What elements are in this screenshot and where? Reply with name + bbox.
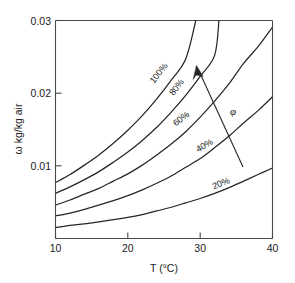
y-axis-ticks xyxy=(56,21,62,166)
rh-curve-20 xyxy=(56,168,273,228)
x-axis-title: T (°C) xyxy=(150,262,178,274)
rh-curve-label-60: 60% xyxy=(171,109,191,128)
y-axis-title: ω kg/kg air xyxy=(12,103,24,154)
x-tick-label-40: 40 xyxy=(267,242,279,254)
phi-symbol-label: φ xyxy=(230,105,236,117)
rh-curve-label-80: 80% xyxy=(167,77,186,97)
plot-frame xyxy=(56,21,273,239)
rh-curve-label-40: 40% xyxy=(194,137,215,155)
arrow-shaft xyxy=(199,71,243,167)
chart-canvas: 0.03 0.02 0.01 10 20 30 40 T (°C) ω kg/k… xyxy=(0,0,295,283)
rh-curve-100 xyxy=(56,21,196,183)
rh-curve-group xyxy=(56,21,273,228)
y-tick-label-0.03: 0.03 xyxy=(31,15,52,27)
rh-curve-label-group: 100%80%60%40%20% xyxy=(148,61,231,191)
x-axis-ticks xyxy=(56,233,273,239)
rh-curve-label-20: 20% xyxy=(211,175,231,191)
rh-curve-label-100: 100% xyxy=(148,61,170,85)
y-tick-label-0.01: 0.01 xyxy=(31,160,52,172)
rh-curve-40 xyxy=(56,97,273,216)
x-tick-label-30: 30 xyxy=(194,242,206,254)
x-tick-label-10: 10 xyxy=(50,242,62,254)
x-tick-label-20: 20 xyxy=(122,242,134,254)
y-tick-label-0.02: 0.02 xyxy=(31,87,52,99)
psychrometric-chart-figure: 0.03 0.02 0.01 10 20 30 40 T (°C) ω kg/k… xyxy=(0,0,295,283)
